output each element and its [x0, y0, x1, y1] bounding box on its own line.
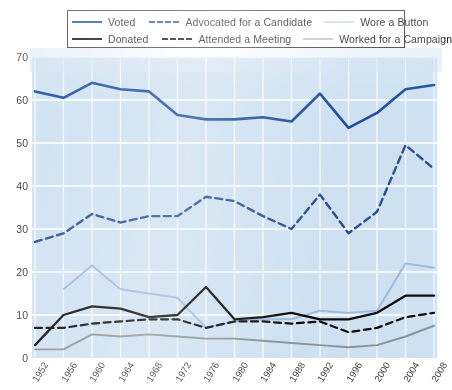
- plot-canvas: [32, 57, 437, 358]
- x-axis-tick-label: 2008: [429, 360, 450, 384]
- x-axis-tick-label: 1996: [343, 360, 364, 384]
- y-axis-tick-label: 50: [16, 137, 28, 149]
- y-axis-tick-label: 60: [16, 94, 28, 106]
- x-axis-tick-label: 1968: [144, 360, 165, 384]
- x-axis-tick-label: 1984: [258, 360, 279, 384]
- x-axis-tick-labels: 1952195619601964196819721976198019841988…: [32, 358, 437, 390]
- x-axis-tick-label: 1952: [30, 360, 51, 384]
- x-axis-tick-label: 1992: [315, 360, 336, 384]
- x-axis-tick-label: 2004: [400, 360, 421, 384]
- x-axis-tick-label: 1972: [172, 360, 193, 384]
- x-axis-tick-label: 1980: [229, 360, 250, 384]
- y-axis-tick-label: 40: [16, 180, 28, 192]
- x-axis-tick-label: 1988: [286, 360, 307, 384]
- y-axis-tick-label: 10: [16, 309, 28, 321]
- x-axis-tick-label: 2000: [372, 360, 393, 384]
- y-axis-tick-label: 70: [16, 51, 28, 63]
- x-axis-tick-label: 1956: [58, 360, 79, 384]
- y-axis-tick-label: 20: [16, 266, 28, 278]
- series-lines: [32, 57, 437, 358]
- y-axis-tick-label: 0: [22, 352, 28, 364]
- y-axis-tick-labels: 010203040506070: [0, 57, 28, 358]
- y-axis-tick-label: 30: [16, 223, 28, 235]
- x-axis-tick-label: 1976: [201, 360, 222, 384]
- x-axis-tick-label: 1964: [115, 360, 136, 384]
- x-axis-tick-label: 1960: [87, 360, 108, 384]
